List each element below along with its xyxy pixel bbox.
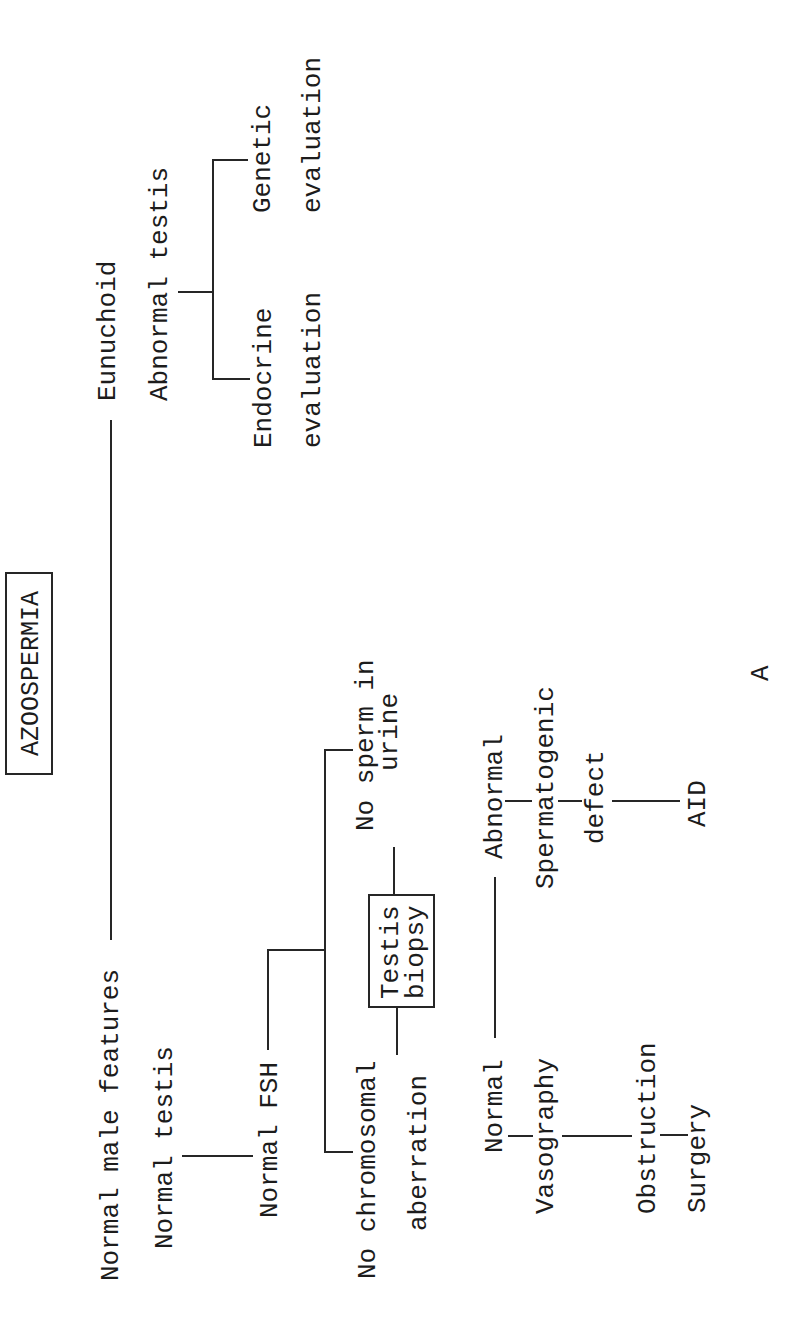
bracket-line [324, 749, 326, 1153]
bracket-line [212, 159, 214, 380]
bracket-arm [212, 159, 248, 161]
azoospermia-flowchart: AZOOSPERMIA Normal male features Eunucho… [0, 0, 787, 1324]
node-obstruction: Obstruction [635, 1042, 661, 1214]
node-no-sperm-in-urine-line2: urine [377, 693, 403, 771]
node-normal-testis: Normal testis [152, 1046, 178, 1249]
node-normal-fsh: Normal FSH [257, 1062, 283, 1218]
diagram-title: AZOOSPERMIA [19, 591, 44, 756]
connector-line [182, 1155, 253, 1157]
node-normal-male-features: Normal male features [98, 969, 124, 1281]
node-biopsy-normal: Normal [482, 1059, 508, 1153]
node-no-chromosomal-aberration-line1: No chromosomal [355, 1061, 381, 1279]
node-testis-biopsy-line2: biopsy [403, 905, 429, 999]
node-vasography: Vasography [533, 1058, 559, 1214]
connector-line [505, 800, 532, 802]
node-endocrine-evaluation-line2: evaluation [300, 292, 326, 448]
connector-line [178, 291, 214, 293]
node-abnormal-testis: Abnormal testis [147, 167, 173, 401]
node-biopsy-abnormal: Abnormal [482, 734, 508, 859]
node-surgery: Surgery [685, 1104, 711, 1213]
node-aid: AID [685, 780, 711, 827]
connector-line [393, 847, 395, 895]
node-eunuchoid: Eunuchoid [95, 261, 121, 401]
node-no-chromosomal-aberration-line2: aberration [406, 1075, 432, 1231]
connector-line [396, 1007, 398, 1055]
node-genetic-evaluation-line2: evaluation [300, 57, 326, 213]
node-spermatogenic-defect-line1: Spermatogenic [533, 686, 559, 889]
connector-line [494, 877, 496, 1038]
connector-line [110, 420, 112, 940]
connector-line [562, 1135, 632, 1137]
connector-line [267, 949, 269, 1050]
bracket-arm [324, 749, 353, 751]
bracket-arm [324, 1151, 353, 1153]
connector-line [508, 1135, 533, 1137]
node-genetic-evaluation-line1: Genetic [250, 104, 276, 213]
connector-line [267, 949, 326, 951]
connector-line [612, 800, 680, 802]
figure-panel-label: A [748, 665, 774, 681]
node-spermatogenic-defect-line2: defect [583, 750, 609, 844]
node-endocrine-evaluation-line1: Endocrine [251, 308, 277, 448]
bracket-arm [212, 378, 250, 380]
connector-line [558, 800, 582, 802]
